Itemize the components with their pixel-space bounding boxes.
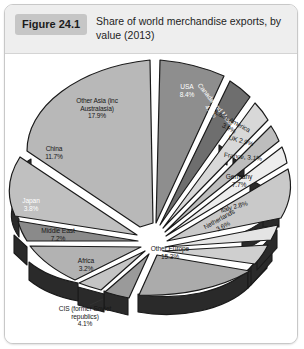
figure-header: Figure 24.1 Share of world merchandise e… (5, 5, 297, 54)
figure-number-badge: Figure 24.1 (15, 14, 87, 35)
slice-label-germany: Germany 7.7% (213, 173, 265, 188)
slice-label-japan: Japan 3.8% (12, 197, 50, 212)
slice-label-other-europe: Other Europe 15.3% (141, 245, 199, 260)
figure-title: Share of world merchandise exports, by v… (96, 13, 287, 42)
slice-label-africa: Africa 3.2% (67, 257, 105, 272)
slice-label-cis: CIS (former Soviet republics) 4.1% (47, 305, 123, 328)
slice-label-other-asia: Other Asia (inc Australasia) 17.9% (64, 97, 130, 120)
pie-chart: USA 8.4% Canada and Mexico 4.5% Latin Am… (5, 55, 297, 343)
figure-card: Figure 24.1 Share of world merchandise e… (4, 4, 298, 344)
slice-label-middle-east: Middle East 7.2% (30, 227, 86, 242)
slice-label-china: China 11.7% (33, 145, 75, 160)
